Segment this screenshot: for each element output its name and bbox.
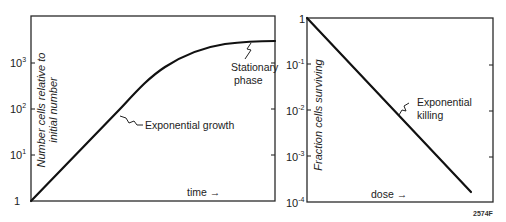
stationary-annotation-leader	[245, 43, 251, 59]
stationary-label-line2: phase	[234, 74, 263, 86]
survival-ytick-label-1e-4: 10-4	[286, 196, 305, 209]
growth-chart: 1 101 102 103 Number cells relative to i…	[10, 16, 279, 207]
stationary-label-line1: Stationary	[231, 61, 279, 73]
killing-annotation-leader	[399, 103, 409, 115]
growth-ylabel: Number cells relative to initial number	[35, 53, 59, 168]
growth-plot-frame	[31, 16, 275, 201]
survival-ytick-label-1e-1: 10-1	[286, 58, 305, 71]
growth-ytick-label-10: 101	[10, 148, 26, 161]
exponential-killing-line1: Exponential	[417, 96, 472, 108]
growth-ytick-label-100: 102	[10, 102, 26, 115]
growth-annotation-leader	[120, 116, 143, 125]
survival-xlabel: dose →	[371, 188, 407, 200]
svg-text:Number cells relative to: Number cells relative to	[35, 53, 47, 168]
figure-canvas: 1 101 102 103 Number cells relative to i…	[0, 0, 506, 222]
survival-plot-frame	[307, 18, 493, 202]
svg-text:initial number: initial number	[47, 76, 59, 143]
figure-id: 2574F	[473, 210, 494, 217]
exponential-growth-label: Exponential growth	[145, 119, 234, 131]
growth-ytick-label-1: 1	[14, 195, 20, 207]
exponential-killing-line2: killing	[417, 109, 443, 121]
survival-ytick-label-1e-2: 10-2	[286, 104, 305, 117]
survival-ytick-label-1: 1	[299, 13, 305, 25]
survival-chart: 1 10-1 10-2 10-3 10-4 Fraction cells sur…	[286, 13, 493, 209]
survival-ytick-label-1e-3: 10-3	[286, 150, 305, 163]
survival-ylabel: Fraction cells surviving	[312, 58, 324, 170]
growth-ytick-label-1000: 103	[10, 56, 26, 69]
growth-xlabel: time →	[187, 186, 220, 198]
